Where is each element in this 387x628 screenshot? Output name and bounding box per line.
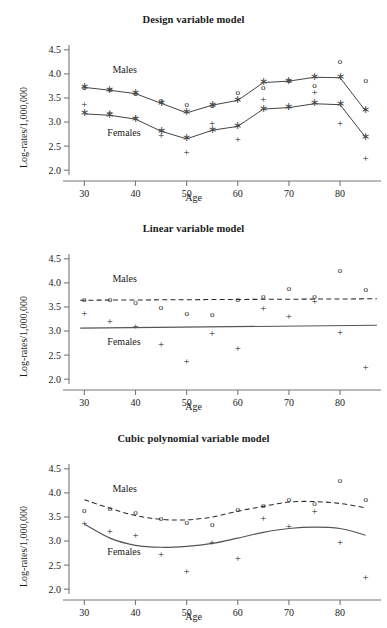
series-label-females: Females	[107, 546, 140, 557]
data-marker-plus: +	[107, 525, 113, 537]
data-marker-o: o	[108, 294, 113, 304]
data-marker-o: o	[210, 309, 215, 319]
x-tick-label: 60	[233, 188, 243, 199]
x-tick-label: 70	[284, 188, 294, 199]
data-marker-o: o	[338, 475, 343, 485]
data-marker-o: o	[338, 265, 343, 275]
data-marker-o: o	[133, 297, 138, 307]
y-tick-label: 2.5	[49, 141, 62, 152]
y-tick-label: 2.5	[49, 560, 62, 571]
data-marker-o: o	[363, 494, 368, 504]
data-marker-o: o	[159, 513, 164, 523]
series-label-males: Males	[112, 64, 137, 75]
data-marker-star: ∗	[284, 74, 293, 86]
data-marker-star: ∗	[80, 80, 89, 92]
data-marker-plus: +	[81, 307, 87, 319]
data-marker-star: ∗	[131, 86, 140, 98]
data-marker-star: ∗	[361, 103, 370, 115]
data-marker-star: ∗	[105, 83, 114, 95]
fitted-line-males	[80, 299, 377, 300]
data-marker-plus: +	[337, 536, 343, 548]
data-marker-star: ∗	[157, 96, 166, 108]
data-marker-o: o	[184, 517, 189, 527]
data-marker-star: ∗	[310, 96, 319, 108]
y-tick-label: 4.5	[49, 44, 62, 55]
y-tick-label: 4.0	[49, 277, 62, 288]
x-tick-label: 40	[130, 397, 140, 408]
data-marker-star: ∗	[310, 70, 319, 82]
x-tick-label: 70	[284, 397, 294, 408]
data-marker-o: o	[210, 519, 215, 529]
data-marker-star: ∗	[259, 75, 268, 87]
data-marker-plus: +	[158, 338, 164, 350]
data-marker-plus: +	[286, 310, 292, 322]
figure-three-panel-model-comparison: Design variable model Log-rates/1,000,00…	[0, 0, 387, 628]
y-tick-label: 4.0	[49, 68, 62, 79]
y-tick-label: 4.5	[49, 463, 62, 474]
y-tick-label: 3.0	[49, 116, 62, 127]
fitted-connecting-line	[84, 77, 365, 113]
data-marker-o: o	[159, 302, 164, 312]
data-marker-star: ∗	[208, 98, 217, 110]
data-marker-plus: +	[311, 505, 317, 517]
x-tick-label: 40	[130, 188, 140, 199]
data-marker-o: o	[82, 505, 87, 515]
data-marker-plus: +	[311, 295, 317, 307]
x-tick-label: 50	[182, 607, 192, 618]
x-tick-label: 50	[182, 397, 192, 408]
y-tick-label: 3.5	[49, 301, 62, 312]
data-marker-plus: +	[260, 302, 266, 314]
data-marker-plus: +	[286, 520, 292, 532]
fitted-curve-females	[84, 524, 365, 547]
data-marker-plus: +	[209, 536, 215, 548]
data-marker-plus: +	[132, 320, 138, 332]
series-label-females: Females	[107, 127, 140, 138]
panel-linear-variable-model: Linear variable model Log-rates/1,000,00…	[0, 209, 387, 418]
data-marker-star: ∗	[182, 131, 191, 143]
series-label-males: Males	[112, 483, 137, 494]
data-marker-star: ∗	[182, 105, 191, 117]
data-marker-star: ∗	[336, 70, 345, 82]
data-marker-plus: +	[235, 133, 241, 145]
data-marker-star: ∗	[131, 112, 140, 124]
x-tick-label: 70	[284, 607, 294, 618]
y-tick-label: 2.0	[49, 165, 62, 176]
data-marker-plus: +	[132, 529, 138, 541]
plot-area-linear-variable: 2.02.53.03.54.04.5304050607080oooooooooo…	[0, 209, 387, 418]
x-tick-label: 80	[335, 188, 345, 199]
x-tick-label: 80	[335, 607, 345, 618]
y-tick-label: 3.0	[49, 535, 62, 546]
x-tick-label: 80	[335, 397, 345, 408]
data-marker-star: ∗	[80, 106, 89, 118]
y-tick-label: 3.5	[49, 511, 62, 522]
x-tick-label: 30	[79, 397, 89, 408]
x-tick-label: 40	[130, 607, 140, 618]
data-marker-plus: +	[235, 342, 241, 354]
plot-area-design-variable: 2.02.53.03.54.04.5304050607080oooooooooo…	[0, 0, 387, 209]
data-marker-o: o	[184, 308, 189, 318]
data-marker-o: o	[287, 283, 292, 293]
x-tick-label: 30	[79, 607, 89, 618]
data-marker-o: o	[363, 284, 368, 294]
data-marker-star: ∗	[233, 93, 242, 105]
series-label-males: Males	[112, 273, 137, 284]
x-tick-label: 30	[79, 188, 89, 199]
data-marker-star: ∗	[336, 97, 345, 109]
data-marker-star: ∗	[157, 124, 166, 136]
data-marker-star: ∗	[361, 130, 370, 142]
data-marker-o: o	[338, 56, 343, 66]
data-marker-star: ∗	[284, 100, 293, 112]
data-marker-o: o	[261, 500, 266, 510]
data-marker-plus: +	[363, 571, 369, 583]
y-tick-label: 4.0	[49, 487, 62, 498]
data-marker-plus: +	[209, 327, 215, 339]
data-marker-plus: +	[363, 361, 369, 373]
data-marker-plus: +	[184, 355, 190, 367]
data-marker-plus: +	[158, 548, 164, 560]
fitted-curve-males	[84, 500, 365, 520]
data-marker-plus: +	[235, 552, 241, 564]
x-tick-label: 50	[182, 188, 192, 199]
data-marker-star: ∗	[105, 108, 114, 120]
y-tick-label: 3.5	[49, 92, 62, 103]
data-marker-o: o	[82, 294, 87, 304]
